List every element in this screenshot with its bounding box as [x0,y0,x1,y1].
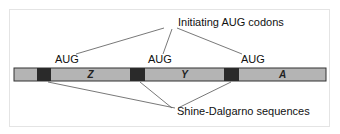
initiating-codons-label: Initiating AUG codons [178,16,284,28]
aug-label-3: AUG [241,53,265,65]
shine-dalgarno-box-1 [37,68,51,81]
aug-label-1: AUG [55,53,79,65]
gene-z-label: Z [51,69,130,80]
gene-a-label: A [239,69,326,80]
shine-dalgarno-label: Shine-Dalgarno sequences [177,105,310,117]
shine-dalgarno-box-3 [224,68,239,81]
gene-y-label: Y [145,69,224,80]
shine-dalgarno-box-2 [130,68,145,81]
aug-label-2: AUG [148,53,172,65]
